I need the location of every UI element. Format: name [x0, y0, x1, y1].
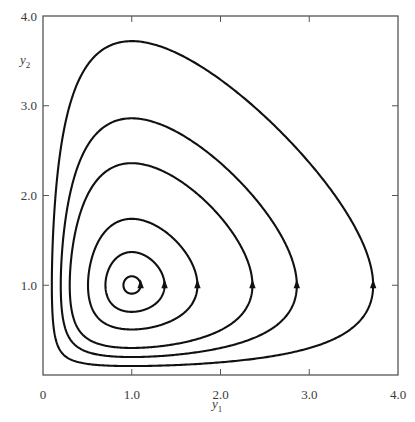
- orbit-orbit-1: [123, 276, 140, 293]
- direction-arrow-icon: [294, 279, 300, 288]
- y-tick-label: 4.0: [21, 9, 37, 24]
- orbit-orbit-6: [52, 41, 373, 366]
- y-tick-label: 2.0: [21, 188, 37, 203]
- y-tick-label: 3.0: [21, 98, 37, 113]
- orbit-orbit-2: [105, 252, 164, 312]
- direction-arrow-icon: [249, 279, 255, 288]
- phase-portrait-chart: 01.02.03.04.01.02.03.04.0 y2 y1: [0, 0, 415, 422]
- plot-frame: [43, 16, 398, 375]
- orbit-orbit-5: [61, 118, 297, 357]
- x-tick-label: 1.0: [124, 387, 140, 402]
- direction-arrow-icon: [161, 279, 167, 288]
- tick-labels: 01.02.03.04.01.02.03.04.0: [21, 9, 406, 403]
- orbit-orbit-4: [70, 163, 253, 348]
- x-tick-label: 3.0: [301, 387, 317, 402]
- y-tick-label: 1.0: [21, 278, 37, 293]
- axis-ticks: [43, 16, 398, 375]
- orbit-orbit-3: [88, 219, 197, 330]
- x-tick-label: 4.0: [390, 387, 406, 402]
- direction-arrow-icon: [194, 279, 200, 288]
- x-tick-label: 0: [40, 387, 47, 402]
- direction-arrow-icon: [370, 279, 376, 288]
- orbit-curves: [52, 41, 377, 366]
- y-axis-label: y2: [18, 52, 30, 70]
